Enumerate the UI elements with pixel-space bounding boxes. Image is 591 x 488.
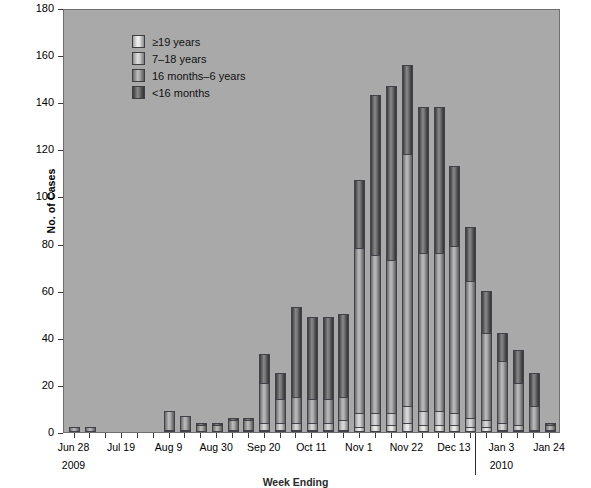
bar-segment (259, 383, 270, 423)
bar-stack (196, 423, 207, 432)
legend-item-7-18-years: 7–18 years (132, 50, 246, 67)
y-tick-label: 60 (42, 285, 54, 297)
bar-segment (418, 425, 429, 432)
x-tick-mark (295, 433, 296, 438)
bar-segment (180, 416, 191, 430)
bar-stack (465, 227, 476, 432)
bar-segment (370, 425, 381, 432)
x-tick-mark (200, 433, 201, 438)
bar-segment (180, 430, 191, 432)
bar-segment (291, 307, 302, 397)
bar-segment (529, 373, 540, 406)
bar-segment (465, 281, 476, 418)
x-tick-mark (232, 433, 233, 438)
bar-segment (212, 425, 223, 432)
x-tick-label: Jan 24 (514, 441, 584, 453)
x-tick-mark (470, 433, 471, 438)
x-tick-mark (153, 433, 154, 438)
bar-segment (513, 430, 524, 432)
x-tick-mark (391, 433, 392, 438)
bar-stack (354, 180, 365, 432)
bar-segment (338, 397, 349, 421)
legend-swatch-under-16-months (132, 86, 145, 99)
y-tick-label: 100 (36, 190, 54, 202)
y-tick-label: 0 (48, 426, 54, 438)
x-tick-mark (137, 433, 138, 438)
x-tick-mark (311, 433, 312, 438)
bar-segment (434, 253, 445, 411)
legend-swatch-19-years (132, 35, 145, 48)
x-axis-title: Week Ending (0, 476, 591, 488)
bar-segment (370, 95, 381, 255)
y-tick-mark (58, 433, 63, 434)
bar-segment (449, 425, 460, 432)
bar-segment (449, 413, 460, 425)
bar-stack (291, 307, 302, 432)
bar-segment (370, 255, 381, 413)
y-tick: 60 (0, 292, 63, 293)
bar-segment (196, 425, 207, 432)
bar-stack (386, 86, 397, 432)
bar-segment (529, 406, 540, 430)
bar-segment (386, 260, 397, 413)
bar-stack (164, 411, 175, 432)
legend-label-under-16-months: <16 months (152, 87, 210, 99)
y-tick: 180 (0, 9, 63, 10)
bar-segment (497, 333, 508, 361)
bar-stack (338, 314, 349, 432)
bar-segment (434, 107, 445, 253)
bar-segment (386, 413, 397, 425)
bar-segment (465, 427, 476, 432)
bar-segment (307, 430, 318, 432)
x-tick-mark (184, 433, 185, 438)
y-tick-label: 120 (36, 143, 54, 155)
bar-segment (370, 413, 381, 425)
bar-segment (481, 427, 492, 432)
bar-segment (291, 423, 302, 430)
bar-segment (323, 423, 334, 430)
legend-item-under-16-months: <16 months (132, 84, 246, 101)
legend-item-16-months-6-years: 16 months–6 years (132, 67, 246, 84)
bar-segment (418, 253, 429, 411)
y-tick: 140 (0, 103, 63, 104)
bar-segment (164, 411, 175, 430)
bar-stack (85, 427, 96, 432)
bar-stack (180, 416, 191, 432)
bar-stack (212, 423, 223, 432)
bar-segment (338, 420, 349, 429)
y-tick-label: 20 (42, 379, 54, 391)
bar-segment (275, 430, 286, 432)
bar-segment (449, 246, 460, 413)
x-tick-mark (74, 433, 75, 438)
x-tick-mark (517, 433, 518, 438)
bar-stack (323, 317, 334, 432)
y-tick: 40 (0, 339, 63, 340)
bar-segment (545, 430, 556, 432)
bar-segment (497, 361, 508, 422)
legend-label-16-months-6-years: 16 months–6 years (152, 70, 246, 82)
bar-segment (434, 411, 445, 425)
x-tick-mark (121, 433, 122, 438)
bar-segment (243, 420, 254, 429)
bar-segment (402, 65, 413, 155)
bar-segment (465, 418, 476, 427)
bar-segment (465, 227, 476, 281)
bar-segment (338, 314, 349, 396)
bar-segment (402, 154, 413, 406)
bar-segment (513, 350, 524, 383)
bar-segment (323, 430, 334, 432)
bar-stack (418, 107, 429, 432)
bar-stack (69, 427, 80, 432)
x-tick-mark (264, 433, 265, 438)
x-tick-mark (89, 433, 90, 438)
y-tick: 20 (0, 386, 63, 387)
bar-segment (418, 411, 429, 425)
legend-swatch-16-months-6-years (132, 69, 145, 82)
y-tick: 0 (0, 433, 63, 434)
x-tick-mark (422, 433, 423, 438)
x-tick-mark (216, 433, 217, 438)
bar-segment (481, 420, 492, 427)
legend-item-19-years: ≥19 years (132, 33, 246, 50)
bar-stack (434, 107, 445, 432)
